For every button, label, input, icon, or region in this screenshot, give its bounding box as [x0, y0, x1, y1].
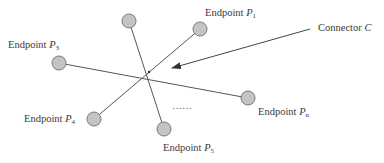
endpoint-label-pn: Endpoint Pn [258, 107, 309, 119]
connector-label-text: Connector [318, 22, 364, 33]
endpoint-subscript: 4 [72, 118, 76, 126]
endpoint-subscript: 1 [253, 12, 257, 20]
endpoint-node-p5 [157, 122, 171, 136]
endpoint-node-pn [241, 91, 255, 105]
endpoint-label-text: Endpoint [8, 39, 49, 50]
endpoint-label-p5: Endpoint P5 [163, 143, 214, 155]
endpoint-label-p3: Endpoint P3 [8, 40, 59, 52]
endpoint-subscript: n [306, 111, 310, 119]
endpoint-node-p3 [52, 56, 66, 70]
endpoint-label-p4: Endpoint P4 [24, 114, 75, 126]
endpoint-subscript: 3 [56, 44, 60, 52]
ellipsis-more-endpoints: …… [172, 101, 192, 111]
endpoint-label-text: Endpoint [258, 106, 299, 117]
endpoint-label-text: Endpoint [163, 142, 204, 153]
connector-center [148, 71, 150, 73]
endpoint-label-text: Endpoint [24, 113, 65, 124]
endpoint-subscript: 5 [211, 147, 215, 155]
endpoint-node-p4 [87, 112, 101, 126]
endpoint-label-text: Endpoint [205, 7, 246, 18]
endpoint-label-p1: Endpoint P1 [205, 8, 256, 20]
endpoint-node-top [122, 14, 136, 28]
connector-diagram: Endpoint P1 Connector C Endpoint P3 Endp… [0, 0, 384, 163]
connector-label: Connector C [318, 23, 371, 34]
connector-symbol: C [364, 22, 371, 33]
endpoint-node-p1 [193, 22, 207, 36]
